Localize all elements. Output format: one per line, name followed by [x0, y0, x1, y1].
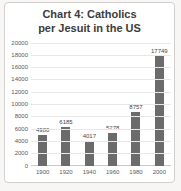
chart-container[interactable]: Chart 4: Catholics per Jesuit in the US … — [4, 2, 175, 183]
y-tick-label: 4000 — [15, 138, 28, 144]
y-tick-label: 16000 — [11, 64, 28, 70]
chart-title-line-2: per Jesuit in the US — [5, 22, 174, 36]
gridline — [31, 141, 171, 142]
y-tick-label: 18000 — [11, 52, 28, 58]
gridline — [31, 153, 171, 154]
y-tick-label: 0 — [25, 163, 28, 169]
bar — [131, 112, 140, 166]
y-tick-label: 6000 — [15, 126, 28, 132]
y-tick-label: 20000 — [11, 40, 28, 46]
plot-area: 4980618540175278875717749 — [31, 43, 171, 166]
x-tick-label: 1980 — [124, 169, 147, 176]
gridline — [31, 67, 171, 68]
gridline — [31, 79, 171, 80]
x-tick-label: 1960 — [101, 169, 124, 176]
gridline — [31, 92, 171, 93]
x-axis-labels: 190019201940196019802000 — [31, 169, 171, 176]
bar-value-label: 6185 — [59, 119, 72, 126]
bar — [38, 135, 47, 166]
bar — [61, 127, 70, 165]
chart-title: Chart 4: Catholics per Jesuit in the US — [5, 8, 174, 36]
bar-value-label: 4017 — [83, 133, 96, 140]
gridline — [31, 55, 171, 56]
y-tick-label: 10000 — [11, 101, 28, 107]
x-tick-label: 1920 — [54, 169, 77, 176]
gridline — [31, 116, 171, 117]
x-tick-label: 1940 — [78, 169, 101, 176]
chart-title-line-1: Chart 4: Catholics — [5, 8, 174, 22]
bar — [108, 133, 117, 165]
gridline — [31, 104, 171, 105]
y-tick-label: 8000 — [15, 113, 28, 119]
gridline — [31, 43, 171, 44]
bar — [155, 56, 164, 165]
y-axis-labels: 2000018000160001400012000100008000600040… — [5, 43, 31, 166]
x-tick-label: 1900 — [31, 169, 54, 176]
chart-body: 2000018000160001400012000100008000600040… — [5, 43, 174, 166]
gridline — [31, 129, 171, 130]
y-tick-label: 2000 — [15, 150, 28, 156]
x-tick-label: 2000 — [148, 169, 171, 176]
y-tick-label: 14000 — [11, 76, 28, 82]
y-tick-label: 12000 — [11, 89, 28, 95]
